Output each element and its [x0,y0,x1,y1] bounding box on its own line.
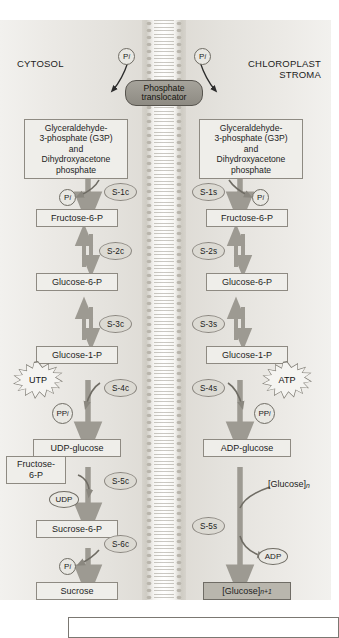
region-label-chloroplast: CHLOROPLAST STROMA [248,58,321,80]
phosphate-translocator: Phosphate translocator [125,80,203,106]
adp-circle: ADP [258,548,288,565]
cytosol-metabolite-fructose-6-p: Fructose-6-P [36,209,118,227]
ppi-label: PP [258,409,269,418]
cytosol-triose-phosphate-box: Glyceraldehyde- 3-phosphate (G3P) and Di… [24,119,128,179]
stroma-metabolite-adp-glucose: ADP-glucose [203,439,291,457]
cytosol-metabolite-udp-glucose: UDP-glucose [33,439,121,457]
pi-circle-cytosol-step1: Pi [59,189,76,206]
ppi-circle-stroma: PPi [254,403,275,424]
pi-subscript: i [69,563,71,570]
pi-circle-cytosol-top: Pi [118,48,135,65]
enzyme-s-1c: S-1c [104,183,137,201]
membrane-lipid-tails [154,20,174,600]
ppi-subscript: i [67,410,69,417]
utp-label: UTP [13,361,63,399]
atp-starburst: ATP [262,361,312,399]
membrane-beads-right [174,20,184,600]
triose-line2: 3-phosphate (G3P) [39,133,112,144]
enzyme-s-4c: S-4c [104,379,137,397]
membrane-beads-left [144,20,154,600]
side-fructose-line1: Fructose- [17,459,55,470]
cytosol-metabolite-sucrose-6-p: Sucrose-6-P [36,520,118,538]
glucose-n-primer-label: [Glucose]n [268,479,310,489]
region-label-cytosol: CYTOSOL [17,58,64,69]
enzyme-s-1s: S-1s [192,183,225,201]
enzyme-s-6c: S-6c [104,535,137,553]
enzyme-s-5c: S-5c [104,472,137,490]
region-label-chloroplast-line2: STROMA [248,69,321,80]
triose-line5: phosphate [56,165,96,176]
pathway-diagram: CYTOSOL CHLOROPLAST STROMA Pi Pi Phospha… [0,20,331,600]
side-fructose-line2: 6-P [29,470,43,481]
udp-circle: UDP [49,491,79,508]
stroma-triose-phosphate-box: Glyceraldehyde- 3-phosphate (G3P) and Di… [199,119,303,179]
product-subscript: n+1 [260,586,272,597]
stroma-product-glucose-n-plus-1: [Glucose]n+1 [203,582,291,600]
pi-subscript: i [69,194,71,201]
enzyme-s-3c: S-3c [99,315,132,333]
enzyme-s-2c: S-2c [99,242,132,260]
triose-line3: and [69,144,83,155]
triose-line5: phosphate [231,165,271,176]
pi-subscript: i [262,194,264,201]
triose-line3: and [244,144,258,155]
enzyme-s-2s: S-2s [192,242,225,260]
cytosol-substrate-fructose-6-p-side: Fructose- 6-P [6,456,66,484]
glucose-n-text: [Glucose] [268,479,306,489]
pi-subscript: i [128,53,130,60]
ppi-label: PP [56,409,67,418]
utp-starburst: UTP [13,361,63,399]
triose-line1: Glyceraldehyde- [45,123,108,134]
pi-circle-stroma-top: Pi [194,48,211,65]
thylakoid-envelope-membrane [142,20,186,600]
stroma-metabolite-fructose-6-p: Fructose-6-P [206,209,288,227]
product-text: [Glucose] [222,586,260,597]
triose-line4: Dihydroxyacetone [217,154,286,165]
ppi-subscript: i [269,410,271,417]
figure-caption-box [68,617,339,638]
enzyme-s-3s: S-3s [192,315,225,333]
enzyme-s-4s: S-4s [192,379,225,397]
stroma-metabolite-glucose-6-p: Glucose-6-P [206,273,288,291]
triose-line4: Dihydroxyacetone [42,154,111,165]
triose-line1: Glyceraldehyde- [220,123,283,134]
enzyme-s-5s: S-5s [192,517,225,535]
region-label-chloroplast-line1: CHLOROPLAST [248,58,321,69]
atp-label: ATP [262,361,312,399]
pi-circle-stroma-step1: Pi [252,189,269,206]
cytosol-metabolite-sucrose: Sucrose [36,582,118,600]
cytosol-metabolite-glucose-6-p: Glucose-6-P [36,273,118,291]
triose-line2: 3-phosphate (G3P) [214,133,287,144]
pi-subscript: i [204,53,206,60]
translocator-line2: translocator [142,93,187,103]
pi-circle-cytosol-step6: Pi [59,558,76,575]
glucose-n-subscript: n [306,482,310,489]
ppi-circle-cytosol: PPi [52,403,73,424]
